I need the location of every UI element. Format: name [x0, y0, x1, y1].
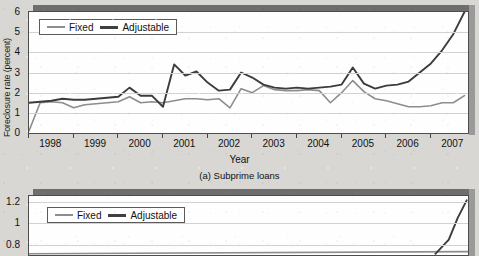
x-tick-mark	[296, 134, 297, 138]
y-tick-label: 0	[14, 128, 20, 138]
legend-item-fixed: Fixed	[47, 22, 93, 33]
x-tick-mark	[207, 134, 208, 138]
y-tick-label: 2	[14, 88, 20, 98]
x-tick-label: 2003	[262, 138, 284, 149]
y-axis-ticks-subprime: 0123456	[0, 12, 20, 133]
x-tick-label: 2004	[307, 138, 329, 149]
x-tick-mark	[251, 134, 252, 138]
legend-item-adjustable-prime: Adjustable	[108, 210, 177, 221]
x-tick-mark	[28, 134, 29, 138]
legend-label-fixed: Fixed	[69, 22, 93, 33]
x-tick-mark	[430, 134, 431, 138]
gridline	[29, 73, 468, 74]
y-axis-ticks-prime: 1.210.8	[0, 196, 20, 256]
series-line-fixed	[29, 252, 468, 254]
y-tick-label: 0.8	[6, 240, 20, 250]
legend-prime: Fixed Adjustable	[47, 207, 185, 223]
y-tick-label: 3	[14, 68, 20, 78]
legend-item-adjustable: Adjustable	[100, 22, 169, 33]
y-tick-label: 1	[14, 108, 20, 118]
gridline	[29, 113, 468, 114]
gridline	[29, 223, 468, 224]
frame-shadow-right-subprime	[469, 5, 475, 135]
legend-label-adjustable: Adjustable	[122, 22, 169, 33]
legend-item-fixed-prime: Fixed	[55, 210, 101, 221]
x-tick-label: 2002	[218, 138, 240, 149]
x-tick-mark	[73, 134, 74, 138]
gridline	[29, 202, 468, 203]
legend-label-fixed-prime: Fixed	[77, 210, 101, 221]
x-tick-mark	[341, 134, 342, 138]
y-tick-label: 1	[14, 218, 20, 228]
x-tick-label: 2006	[396, 138, 418, 149]
y-tick-label: 1.2	[6, 197, 20, 207]
legend-label-adjustable-prime: Adjustable	[130, 210, 177, 221]
x-tick-label: 2000	[128, 138, 150, 149]
y-tick-label: 6	[14, 7, 20, 17]
plot-lines-prime	[29, 196, 468, 256]
x-tick-mark	[385, 134, 386, 138]
y-tick-label: 5	[14, 27, 20, 37]
legend-swatch-adjustable-icon	[100, 26, 118, 29]
figure-caption-subprime: (a) Subprime loans	[0, 170, 479, 181]
figure-subprime-loans: Foreclosure rate (percent) 0123456 Fixed…	[0, 0, 479, 182]
legend-swatch-adjustable-icon	[108, 214, 126, 217]
legend-swatch-fixed-icon	[47, 26, 65, 28]
x-tick-label: 2001	[173, 138, 195, 149]
figure-prime-loans-partial: e (percent) 1.210.8 Fixed Adjustable	[0, 186, 479, 256]
x-tick-mark	[162, 134, 163, 138]
legend-swatch-fixed-icon	[55, 214, 73, 216]
gridline	[29, 52, 468, 53]
y-tick-label: 4	[14, 47, 20, 57]
plot-area-prime	[28, 195, 469, 256]
legend-subprime: Fixed Adjustable	[39, 19, 177, 35]
x-axis-ticks-subprime: 1998199920002001200220032004200520062007	[28, 134, 469, 150]
x-tick-label: 2007	[441, 138, 463, 149]
x-tick-label: 2005	[352, 138, 374, 149]
gridline	[29, 93, 468, 94]
x-tick-mark	[117, 134, 118, 138]
series-line-fixed	[29, 81, 464, 131]
x-tick-label: 1998	[39, 138, 61, 149]
x-tick-label: 1999	[84, 138, 106, 149]
x-axis-label-subprime: Year	[0, 154, 479, 165]
gridline	[29, 245, 468, 246]
frame-shadow-right-prime	[469, 189, 475, 256]
